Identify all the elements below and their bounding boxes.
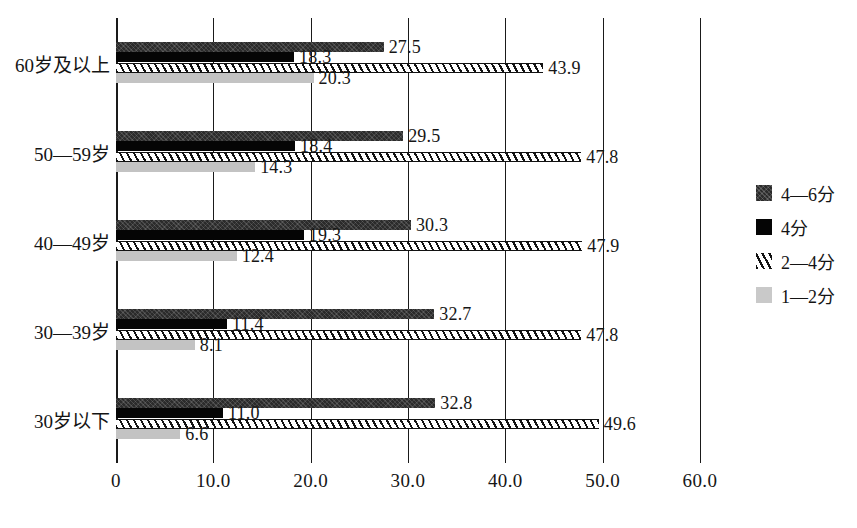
category-label-3: 30—39岁 [0, 316, 110, 343]
legend-item-2[interactable]: 2—4分 [756, 244, 857, 278]
category-label-4: 30岁以下 [0, 405, 110, 432]
bar-1-3 [116, 319, 227, 329]
bar-value-label: 43.9 [548, 57, 580, 78]
x-tick-label: 10.0 [196, 470, 231, 492]
x-tick-label: 40.0 [488, 470, 523, 492]
bar-2-3 [116, 330, 581, 340]
bar-value-label: 32.7 [439, 303, 471, 324]
bar-0-1 [116, 131, 403, 141]
bar-0-2 [116, 220, 411, 230]
legend-label: 4分 [781, 214, 808, 240]
bar-3-4 [116, 429, 180, 439]
bar-value-label: 47.8 [586, 324, 618, 345]
bar-value-label: 20.3 [319, 68, 351, 89]
legend-item-0[interactable]: 4—6分 [756, 176, 857, 210]
bar-0-4 [116, 398, 435, 408]
x-tick-label: 50.0 [585, 470, 620, 492]
x-tick-label: 0 [111, 470, 121, 492]
bar-0-3 [116, 309, 434, 319]
bar-value-label: 30.3 [416, 214, 448, 235]
legend-item-1[interactable]: 4分 [756, 210, 857, 244]
category-label-0: 60岁及以上 [0, 49, 110, 76]
bar-1-4 [116, 408, 223, 418]
category-label-2: 40—49岁 [0, 227, 110, 254]
bar-value-label: 32.8 [440, 392, 472, 413]
bar-value-label: 6.6 [185, 424, 208, 445]
bar-value-label: 47.8 [586, 146, 618, 167]
bar-2-1 [116, 152, 581, 162]
bar-1-0 [116, 52, 294, 62]
bar-value-label: 47.9 [587, 235, 619, 256]
bar-1-1 [116, 141, 295, 151]
bar-1-2 [116, 230, 304, 240]
bar-3-3 [116, 340, 195, 350]
bar-2-2 [116, 241, 582, 251]
gridline-60.0 [700, 18, 701, 463]
bar-0-0 [116, 42, 384, 52]
bar-value-label: 49.6 [604, 413, 636, 434]
bar-value-label: 8.1 [200, 335, 223, 356]
bar-value-label: 27.5 [389, 36, 421, 57]
legend-label: 4—6分 [781, 180, 835, 206]
plot-area: 27.518.343.920.329.518.447.814.330.319.3… [116, 18, 700, 463]
legend-label: 1—2分 [781, 282, 835, 308]
legend-label: 2—4分 [781, 248, 835, 274]
category-label-1: 50—59岁 [0, 138, 110, 165]
legend-swatch-icon [756, 219, 772, 235]
x-tick-label: 20.0 [293, 470, 328, 492]
bar-value-label: 14.3 [260, 157, 292, 178]
bar-3-2 [116, 251, 237, 261]
bar-3-1 [116, 162, 255, 172]
legend-swatch-icon [756, 287, 772, 303]
chart-legend: 4—6分4分2—4分1—2分 [756, 176, 857, 312]
x-tick-label: 30.0 [391, 470, 426, 492]
x-tick-label: 60.0 [683, 470, 718, 492]
bar-3-0 [116, 73, 314, 83]
bar-value-label: 29.5 [408, 125, 440, 146]
legend-item-3[interactable]: 1—2分 [756, 278, 857, 312]
legend-swatch-icon [756, 185, 772, 201]
bar-value-label: 12.4 [242, 246, 274, 267]
bar-chart: 27.518.343.920.329.518.447.814.330.319.3… [0, 0, 857, 528]
legend-swatch-icon [756, 253, 772, 269]
